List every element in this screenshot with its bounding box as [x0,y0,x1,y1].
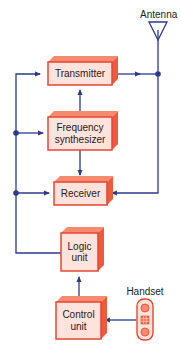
junction-dot [13,130,19,136]
logic-unit-label: Logic unit [61,233,98,271]
logic-unit-line2: unit [71,252,87,264]
junction-dot [155,71,161,77]
receiver-text: Receiver [61,188,100,200]
transmitter-label: Transmitter [48,62,112,85]
logic-unit-line1: Logic [68,241,92,253]
transmitter-text: Transmitter [55,68,105,80]
control-unit-line1: Control [62,309,94,321]
handset-label: Handset [125,286,165,297]
antenna-to-receiver-line [112,30,158,193]
frequency-synthesizer-line1: Frequency [56,122,103,134]
diagram-canvas [0,0,181,351]
receiver-label: Receiver [54,182,107,205]
frequency-synthesizer-label: Frequency synthesizer [48,117,112,150]
junction-dot [13,190,19,196]
control-unit-label: Control unit [56,302,101,339]
antenna-label: Antenna [140,9,176,20]
control-unit-line2: unit [70,321,86,333]
frequency-synthesizer-line2: synthesizer [55,134,106,146]
handset-icon [137,299,153,340]
logic-to-bus-line [16,74,62,253]
